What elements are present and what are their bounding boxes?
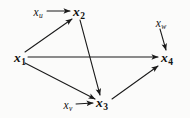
edge-xv-to-x3 xyxy=(76,103,93,104)
node-label-xv: xv xyxy=(64,96,73,113)
node-label-xu: xu xyxy=(33,3,42,20)
node-variable-xu: x xyxy=(33,6,38,18)
edge-x1-to-x3 xyxy=(25,63,95,99)
node-subscript-x1: 1 xyxy=(21,58,26,68)
node-label-x4: x4 xyxy=(161,49,173,68)
node-label-x3: x3 xyxy=(96,94,108,113)
node-subscript-x3: 3 xyxy=(103,103,108,113)
edge-x3-to-x4 xyxy=(112,66,158,99)
causal-graph-figure: x1x2x3x4xuxvxw xyxy=(0,0,190,118)
node-subscript-xu: u xyxy=(39,12,43,20)
edge-xw-to-x4 xyxy=(160,29,166,50)
node-subscript-x4: 4 xyxy=(168,58,173,68)
edge-x1-to-x2 xyxy=(25,19,72,52)
node-label-x1: x1 xyxy=(14,49,26,68)
node-subscript-xv: v xyxy=(69,105,72,113)
node-subscript-x2: 2 xyxy=(80,12,85,22)
node-variable-x2: x xyxy=(73,4,80,19)
node-variable-x1: x xyxy=(14,50,21,65)
edge-layer xyxy=(25,11,166,104)
node-variable-xv: x xyxy=(64,99,69,111)
node-subscript-xw: w xyxy=(161,23,166,31)
node-variable-xw: x xyxy=(156,17,161,29)
node-variable-x4: x xyxy=(161,50,168,65)
node-label-x2: x2 xyxy=(73,3,85,22)
node-variable-x3: x xyxy=(96,95,103,110)
node-label-xw: xw xyxy=(156,14,167,31)
